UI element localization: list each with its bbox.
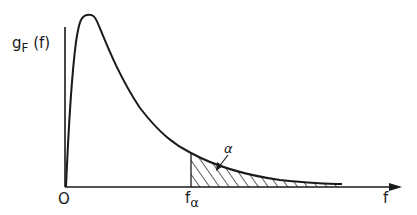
x-axis-label: f — [383, 189, 388, 207]
origin-label: O — [58, 190, 70, 208]
y-label-g: g — [12, 34, 22, 52]
tail-area-label: α — [224, 141, 233, 156]
x-axis-arrowhead — [389, 183, 402, 191]
y-axis-label: gF (f) — [12, 34, 50, 55]
critical-value-label: fα — [185, 189, 199, 210]
critical-value-sub: α — [190, 195, 199, 210]
tail-area-hatched — [191, 153, 342, 187]
f-distribution-plot — [0, 0, 417, 215]
y-label-arg: (f) — [28, 34, 50, 52]
